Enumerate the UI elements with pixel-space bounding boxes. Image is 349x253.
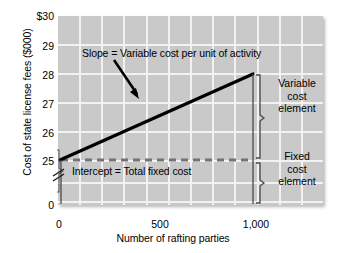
fixed-cost-line-2: cost [266,163,328,176]
gridline-h [58,73,323,75]
y-tick-label-28: 28 [14,70,54,80]
gridline-h [58,201,323,203]
y-tick-label-30: $30 [14,11,54,21]
fixed-cost-line-1: Fixed [266,150,328,163]
fixed-cost-line-3: element [266,175,328,188]
variable-cost-line-1: Variable [266,77,328,90]
x-tick-label-1000: 1,000 [226,218,286,230]
x-tick-label-0: 0 [29,218,89,230]
y-tick-label-26: 26 [14,128,54,138]
x-tick-label-500: 500 [130,218,190,230]
variable-cost-element-label: Variable cost element [266,77,328,115]
intercept-annotation-text: Intercept = Total fixed cost [72,165,191,177]
variable-cost-line-2: cost [266,90,328,103]
gridline-h [58,131,323,133]
y-tick-label-29: 29 [14,41,54,51]
x-axis-title: Number of rafting parties [58,232,288,244]
slope-annotation-text: Slope = Variable cost per unit of activi… [82,47,261,59]
y-tick-label-27: 27 [14,99,54,109]
variable-cost-line-3: element [266,102,328,115]
gridline-h [58,44,323,46]
chart-figure: Cost of state license fees ($000) $30 29… [0,0,349,253]
fixed-cost-element-label: Fixed cost element [266,150,328,188]
y-tick-label-0: 0 [14,200,54,210]
y-tick-label-25: 25 [14,156,54,166]
